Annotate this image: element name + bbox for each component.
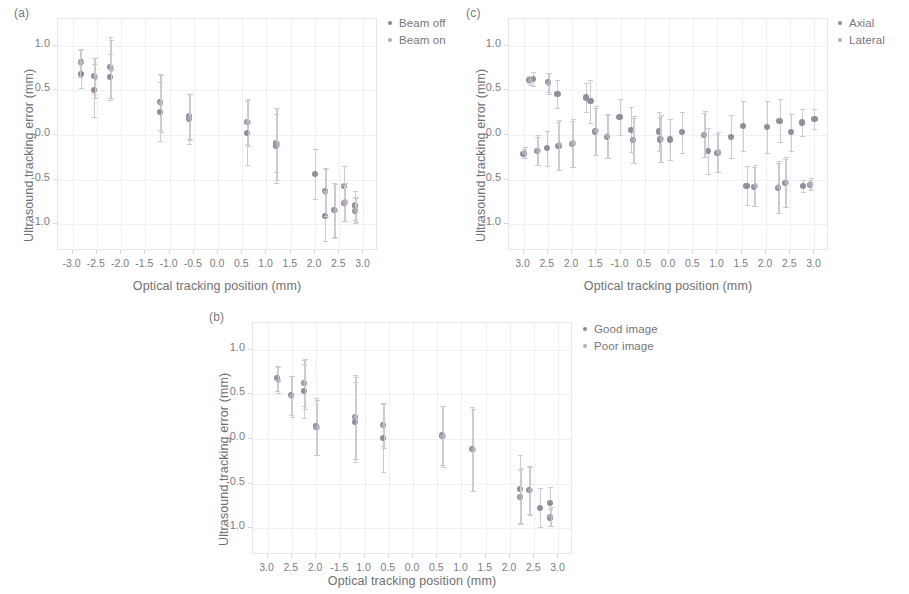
error-bar-cap — [555, 80, 560, 81]
error-bar-cap — [753, 206, 758, 207]
error-bar-cap — [706, 174, 711, 175]
x-axis-tick-mark — [813, 250, 814, 254]
error-bar-cap — [668, 160, 673, 161]
error-bar-cap — [606, 158, 611, 159]
error-bar-cap — [778, 99, 783, 100]
error-bar-cap — [680, 153, 685, 154]
error-bar-cap — [729, 115, 734, 116]
data-point — [570, 140, 575, 145]
x-axis-label: Optical tracking position (mm) — [508, 279, 828, 293]
error-bar-cap — [716, 172, 721, 173]
x-axis-tick-mark — [668, 250, 669, 254]
error-bar-cap — [528, 85, 533, 86]
error-bar-cap — [741, 101, 746, 102]
y-axis-tick-mark — [504, 134, 508, 135]
data-point — [743, 183, 749, 189]
data-point — [535, 148, 540, 153]
y-axis-tick-label: 0.5 — [468, 171, 501, 183]
legend: AxialLateral — [838, 14, 885, 48]
y-axis-tick-mark — [504, 89, 508, 90]
legend-item[interactable]: Lateral — [838, 31, 885, 48]
y-axis-tick-label: 1.0 — [468, 37, 501, 49]
data-point — [587, 98, 593, 104]
x-axis-tick-mark — [692, 250, 693, 254]
x-axis-tick-mark — [765, 250, 766, 254]
error-bar-cap — [531, 72, 536, 73]
x-axis-tick-label: 3.0 — [795, 257, 831, 269]
data-point — [659, 136, 664, 141]
error-bar-cap — [716, 132, 721, 133]
error-bar-cap — [557, 170, 562, 171]
y-axis-tick-label: 0.5 — [468, 81, 501, 93]
legend-label: Axial — [849, 17, 874, 29]
data-point — [716, 149, 721, 154]
gridline-vertical — [693, 19, 694, 249]
legend-item[interactable]: Axial — [838, 14, 885, 31]
data-point — [616, 114, 622, 120]
error-bar-cap — [545, 131, 550, 132]
x-axis-tick-mark — [523, 250, 524, 254]
error-bar-cap — [765, 153, 770, 154]
data-point — [776, 118, 782, 124]
error-bar-cap — [536, 135, 541, 136]
error-bar-cap — [557, 120, 562, 121]
panel-label: (c) — [466, 6, 481, 20]
data-point — [764, 124, 770, 130]
error-bar-cap — [588, 80, 593, 81]
x-axis-tick-mark — [595, 250, 596, 254]
legend-marker-icon — [838, 21, 842, 25]
y-axis-tick-mark — [504, 223, 508, 224]
data-point — [546, 81, 551, 86]
error-bar-cap — [745, 166, 750, 167]
error-bar-cap — [528, 76, 533, 77]
error-bar-cap — [594, 155, 599, 156]
panel-c: (c)Ultrasound tracking error (mm)Optical… — [0, 0, 909, 594]
gridline-horizontal — [509, 46, 827, 47]
error-bar-cap — [809, 178, 814, 179]
gridline-horizontal — [509, 224, 827, 225]
error-bar-cap — [547, 73, 552, 74]
error-bar-cap — [547, 94, 552, 95]
gridline-vertical — [645, 19, 646, 249]
error-bar-cap — [741, 151, 746, 152]
x-axis-tick-mark — [547, 250, 548, 254]
y-axis-tick-label: 0.0 — [468, 126, 501, 138]
error-bar-cap — [745, 205, 750, 206]
error-bar-cap — [618, 99, 623, 100]
error-bar-cap — [729, 158, 734, 159]
x-axis-tick-mark — [789, 250, 790, 254]
error-bar-cap — [800, 136, 805, 137]
y-axis-tick-mark — [504, 179, 508, 180]
error-bar-cap — [703, 111, 708, 112]
data-point — [728, 134, 734, 140]
error-bar-cap — [659, 162, 664, 163]
error-bar-cap — [523, 158, 528, 159]
legend-marker-icon — [838, 38, 842, 42]
error-bar-cap — [584, 83, 589, 84]
error-bar-cap — [632, 116, 637, 117]
error-bar-cap — [812, 129, 817, 130]
gridline-vertical — [814, 19, 815, 249]
error-bar-cap — [629, 107, 634, 108]
error-bar-cap — [523, 147, 528, 148]
error-bar-cap — [784, 207, 789, 208]
data-point — [667, 136, 673, 142]
y-axis-tick-label: -1.0 — [468, 215, 501, 227]
error-bar-cap — [584, 112, 589, 113]
error-bar-cap — [812, 109, 817, 110]
data-point — [799, 119, 805, 125]
error-bar-cap — [657, 112, 662, 113]
legend-label: Lateral — [849, 34, 885, 46]
data-point — [594, 128, 599, 133]
x-axis-tick-mark — [644, 250, 645, 254]
error-bar-cap — [789, 114, 794, 115]
error-bar-cap — [753, 165, 758, 166]
x-axis-tick-mark — [571, 250, 572, 254]
data-point — [784, 180, 789, 185]
error-bar-cap — [778, 142, 783, 143]
error-bar-cap — [632, 163, 637, 164]
data-point — [528, 78, 533, 83]
data-point — [811, 116, 817, 122]
error-bar-cap — [618, 135, 623, 136]
error-bar-cap — [606, 114, 611, 115]
